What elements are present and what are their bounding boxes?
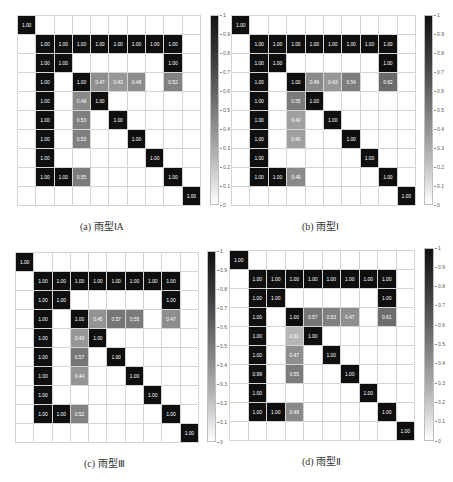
- heatmap-cell: [18, 73, 36, 92]
- heatmap-cell: 1.00: [128, 35, 146, 54]
- heatmap-cell: 1.00: [34, 405, 52, 424]
- heatmap-cell: [378, 327, 397, 346]
- heatmap-cell: [107, 424, 125, 443]
- heatmap-cell: [341, 327, 360, 346]
- heatmap-cell: [360, 308, 379, 327]
- heatmap-cell: [304, 384, 323, 403]
- heatmap-cell: [126, 291, 144, 310]
- heatmap-cell: [230, 346, 249, 365]
- heatmap-cell: 1.00: [16, 253, 34, 272]
- heatmap-cell: 1.00: [378, 270, 397, 289]
- heatmap-cell: [342, 149, 360, 168]
- heatmap-cell: [71, 424, 89, 443]
- heatmap-cell: [183, 73, 201, 92]
- heatmap-cell: [164, 149, 182, 168]
- heatmap-cell: 1.00: [55, 168, 73, 187]
- heatmap-cell: [323, 289, 342, 308]
- heatmap-cell: [379, 130, 397, 149]
- heatmap-cell: [128, 16, 146, 35]
- heatmap-cell: [323, 384, 342, 403]
- heatmap-cell: 0.49: [287, 168, 305, 187]
- heatmap-cell: 1.00: [55, 35, 73, 54]
- heatmap-cell: [323, 422, 342, 441]
- heatmap-cell: [397, 308, 416, 327]
- heatmap-cell: [361, 54, 379, 73]
- colorbar-tick-label: 0.9: [437, 32, 444, 37]
- heatmap-cell: [183, 111, 201, 130]
- heatmap-cell: [16, 348, 34, 367]
- heatmap-cell: [306, 130, 324, 149]
- colorbar-tick-label: 0: [438, 439, 441, 444]
- heatmap-cell: [89, 253, 107, 272]
- heatmap-cell: [341, 289, 360, 308]
- heatmap-cell: [18, 130, 36, 149]
- heatmap-cell: 1.00: [34, 348, 52, 367]
- heatmap-cell: [107, 329, 125, 348]
- heatmap-grid-a: 1.001.001.001.001.001.001.001.001.001.00…: [17, 15, 201, 206]
- heatmap-cell: 0.55: [126, 310, 144, 329]
- heatmap-cell: [379, 111, 397, 130]
- heatmap-cell: [144, 329, 162, 348]
- heatmap-cell: [55, 130, 73, 149]
- heatmap-cell: 1.00: [286, 270, 305, 289]
- heatmap-cell: 0.57: [71, 348, 89, 367]
- colorbar: [424, 248, 434, 441]
- heatmap-cell: [183, 16, 201, 35]
- heatmap-cell: [109, 149, 127, 168]
- colorbar-tick-label: 0.4: [220, 363, 227, 368]
- heatmap-cell: [360, 289, 379, 308]
- heatmap-cell: 1.00: [36, 73, 54, 92]
- heatmap-cell: [71, 253, 89, 272]
- heatmap-cell: [287, 149, 305, 168]
- heatmap-cell: [378, 365, 397, 384]
- heatmap-cell: [16, 272, 34, 291]
- heatmap-cell: 0.55: [73, 168, 91, 187]
- heatmap-cell: [230, 403, 249, 422]
- heatmap-cell: [89, 348, 107, 367]
- heatmap-cell: [398, 16, 416, 35]
- heatmap-cell: [183, 149, 201, 168]
- heatmap-cell: [398, 73, 416, 92]
- heatmap-cell: [146, 168, 164, 187]
- heatmap-cell: [109, 92, 127, 111]
- heatmap-cell: 1.00: [36, 149, 54, 168]
- heatmap-cell: [361, 16, 379, 35]
- heatmap-cell: [230, 384, 249, 403]
- heatmap-cell: [183, 168, 201, 187]
- heatmap-cell: [304, 365, 323, 384]
- heatmap-cell: [232, 168, 250, 187]
- heatmap-cell: [361, 92, 379, 111]
- heatmap-cell: [53, 367, 71, 386]
- heatmap-cell: [146, 54, 164, 73]
- heatmap-cell: 1.00: [53, 405, 71, 424]
- colorbar-tick-label: 0.8: [223, 51, 230, 56]
- heatmap-cell: [267, 308, 286, 327]
- heatmap-cell: [306, 54, 324, 73]
- heatmap-cell: 1.00: [73, 35, 91, 54]
- heatmap-cell: [53, 348, 71, 367]
- heatmap-cell: [342, 16, 360, 35]
- heatmap-cell: [323, 403, 342, 422]
- heatmap-cell: 1.00: [71, 310, 89, 329]
- heatmap-cell: [55, 16, 73, 35]
- heatmap-cell: [73, 149, 91, 168]
- colorbar-tick-label: 0.1: [437, 184, 444, 189]
- heatmap-cell: 1.00: [71, 272, 89, 291]
- heatmap-cell: 0.47: [286, 346, 305, 365]
- heatmap-cell: 1.00: [267, 270, 286, 289]
- heatmap-cell: [89, 367, 107, 386]
- heatmap-cell: [162, 329, 180, 348]
- heatmap-cell: 1.00: [34, 310, 52, 329]
- heatmap-cell: 0.44: [71, 367, 89, 386]
- heatmap-cell: [181, 291, 199, 310]
- heatmap-cell: [361, 187, 379, 206]
- heatmap-cell: 0.52: [71, 405, 89, 424]
- heatmap-cell: [53, 386, 71, 405]
- heatmap-cell: [361, 111, 379, 130]
- heatmap-cell: [18, 187, 36, 206]
- heatmap-cell: 0.55: [286, 365, 305, 384]
- heatmap-cell: [267, 327, 286, 346]
- colorbar-tick-label: 0.9: [223, 32, 230, 37]
- heatmap-cell: 0.53: [73, 111, 91, 130]
- colorbar-tick-label: 0.5: [437, 108, 444, 113]
